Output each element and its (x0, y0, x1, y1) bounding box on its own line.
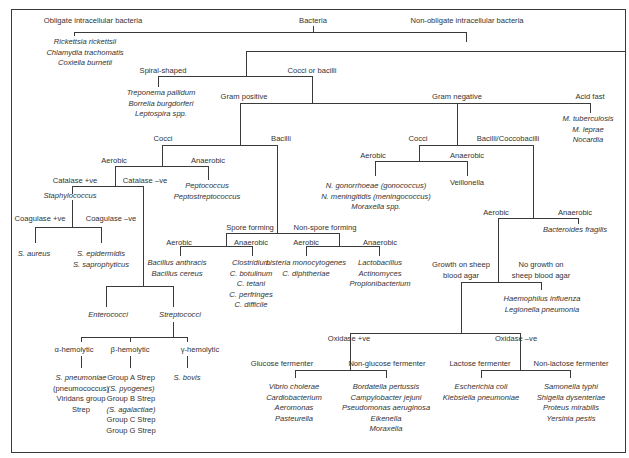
node-no-growth-sheep-blood-agar: No growth on sheep blood agar (512, 260, 571, 281)
node-spore-forming: Spore forming (226, 223, 274, 234)
node-gram-negative: Gram negative (432, 92, 482, 103)
node-coagulase-positive: Coagulase +ve (15, 214, 66, 225)
obligate-examples: Rickettsia rickettsii Chlamydia trachoma… (46, 37, 123, 69)
node-acid-fast: Acid fast (575, 92, 604, 103)
node-gn-cocci-aerobic: Aerobic (360, 151, 386, 162)
node-cocci-or-bacilli: Cocci or bacilli (288, 66, 337, 77)
beta-hemolytic-examples: Group A Strep (S. pyogenes) Group B Stre… (106, 373, 155, 437)
node-oxidase-positive: Oxidase +ve (328, 334, 370, 345)
node-non-spore-forming: Non-spore forming (294, 223, 357, 234)
spiral-examples: Treponema pallidum Borrelia burgdorferi … (127, 88, 196, 120)
node-obligate-intracellular: Obligate intracellular bacteria (44, 16, 142, 27)
gn-bacilli-anaerobic-examples: Bacteroides fragilis (543, 225, 607, 236)
node-gram-positive: Gram positive (221, 92, 268, 103)
non-glucose-fermenter-examples: Bordatella pertussis Campylobacter jejun… (342, 382, 430, 435)
node-nsf-anaerobic: Anaerobic (363, 238, 397, 249)
node-gn-bacilli-aerobic: Aerobic (483, 208, 509, 219)
node-gp-cocci-anaerobic: Anaerobic (191, 156, 225, 167)
node-gn-bacilli-coccobacilli: Bacilli/Coccobacilli (477, 134, 539, 145)
node-non-lactose-fermenter: Non-lactose fermenter (533, 359, 608, 370)
node-bacteria: Bacteria (299, 16, 327, 27)
gp-cocci-anaerobic-examples: Peptococcus Peptostreptococcus (174, 181, 241, 202)
alpha-hemolytic-examples: S. pneumoniae (pneumococcus) Viridans gr… (53, 373, 109, 415)
node-catalase-negative: Catalase –ve (123, 176, 167, 187)
node-sf-aerobic: Aerobic (166, 238, 192, 249)
node-gp-cocci: Cocci (154, 134, 173, 145)
acid-fast-examples: M. tuberculosis M. leprae Nocardia (562, 114, 613, 146)
node-staphylococcus: Staphylococcus (43, 191, 96, 202)
node-non-glucose-fermenter: Non-glucose fermenter (348, 359, 425, 370)
gn-cocci-aerobic-examples: N. gonorrhoeae (gonococcus) N. meningiti… (321, 181, 431, 213)
node-oxidase-negative: Oxidase –ve (495, 334, 537, 345)
node-non-obligate-intracellular: Non-obligate intracellular bacteria (410, 16, 523, 27)
node-beta-hemolytic: β-hemolytic (111, 345, 150, 356)
node-lactose-fermenter: Lactose fermenter (449, 359, 510, 370)
nsf-aerobic-examples: Listeria monocytogenes C. diphtheriae (266, 258, 346, 279)
node-coagulase-negative: Coagulase –ve (86, 214, 137, 225)
node-glucose-fermenter: Glucose fermenter (251, 359, 313, 370)
coagulase-positive-examples: S. aureus (18, 249, 51, 260)
nsf-anaerobic-examples: Lactobacillus Actinomyces Propionibacter… (349, 258, 410, 290)
node-enterococci: Enterococci (88, 310, 128, 321)
node-gn-cocci-anaerobic: Anaerobic (450, 151, 484, 162)
node-sf-anaerobic: Anaerobic (234, 238, 268, 249)
gamma-hemolytic-examples: S. bovis (173, 373, 200, 384)
gn-cocci-anaerobic-examples: Veillonella (450, 178, 484, 189)
coagulase-negative-examples: S. epidermidis S. saprophyticus (73, 249, 129, 270)
node-streptococci: Streptococci (159, 310, 201, 321)
node-gp-bacilli: Bacilli (271, 134, 291, 145)
node-gp-cocci-aerobic: Aerobic (101, 156, 127, 167)
node-spiral-shaped: Spiral-shaped (140, 66, 187, 77)
node-gn-bacilli-anaerobic: Anaerobic (558, 208, 592, 219)
non-lactose-fermenter-examples: Samonella typhi Shigella dysenteriae Pro… (537, 382, 605, 424)
node-growth-sheep-blood-agar: Growth on sheep blood agar (432, 260, 490, 281)
node-catalase-positive: Catalase +ve (53, 176, 98, 187)
no-growth-examples: Haemophilus influenza Legionella pneumon… (504, 294, 581, 315)
glucose-fermenter-examples: Vibrio cholerae Cardiobacterium Aeromona… (266, 382, 322, 424)
node-gn-cocci: Cocci (409, 134, 428, 145)
node-nsf-aerobic: Aerobic (293, 238, 319, 249)
node-alpha-hemolytic: α-hemolytic (55, 345, 94, 356)
node-gamma-hemolytic: γ-hemolytic (181, 345, 219, 356)
sf-aerobic-examples: Bacillus anthracis Bacillus cereus (147, 258, 206, 279)
lactose-fermenter-examples: Escherichia coli Klebsiella pneumoniae (443, 382, 519, 403)
